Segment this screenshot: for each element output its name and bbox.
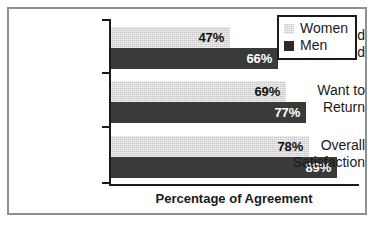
bar-women-would-recommend[interactable]: 47%	[111, 27, 230, 48]
legend-item-women[interactable]: Women	[284, 20, 348, 37]
x-axis-line	[109, 184, 359, 186]
bar-women-want-to-return[interactable]: 69%	[111, 81, 286, 102]
y-axis-label-line: Want to	[269, 82, 365, 99]
legend-swatch-icon	[284, 41, 294, 51]
y-axis-tick	[102, 19, 109, 21]
bar-value-label: 47%	[199, 27, 224, 48]
y-axis-tick	[102, 126, 109, 128]
chart-frame: 47% 66% 69% 77%	[7, 7, 367, 215]
legend-swatch-icon	[284, 24, 294, 34]
y-axis-label-line: Overall	[269, 137, 365, 154]
bar-men-would-recommend[interactable]: 66%	[111, 48, 278, 69]
legend-item-label: Men	[300, 37, 327, 54]
legend-item-label: Women	[300, 20, 348, 37]
legend-item-men[interactable]: Men	[284, 37, 348, 54]
y-axis-tick	[102, 182, 109, 184]
y-axis-label-overall-satisfaction: Overall Satisfaction	[269, 137, 365, 171]
y-axis-label-want-to-return: Want to Return	[269, 82, 365, 116]
legend: Women Men	[277, 15, 357, 60]
x-axis-title: Percentage of Agreement	[109, 191, 359, 206]
y-axis-tick	[102, 72, 109, 74]
y-axis-label-line: Return	[269, 99, 365, 116]
y-axis-label-line: Satisfaction	[269, 154, 365, 171]
